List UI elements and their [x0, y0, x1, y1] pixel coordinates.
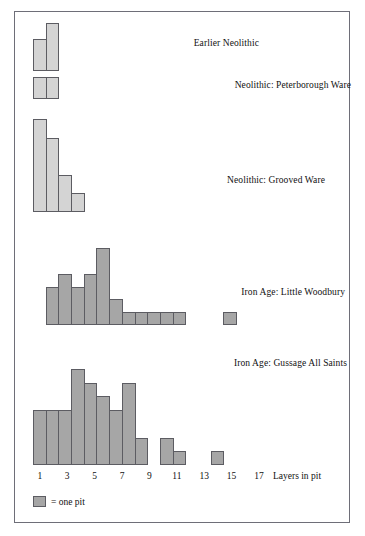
legend: = one pit — [33, 496, 85, 507]
bar — [96, 248, 110, 325]
bar-group-peterborough-ware — [33, 77, 259, 99]
bar — [84, 383, 98, 465]
plot-area-grooved-ware — [33, 120, 259, 213]
figure-frame: Earlier Neolithic Neolithic: Peterboroug… — [14, 11, 350, 523]
bar — [96, 396, 110, 465]
bar — [122, 312, 136, 325]
plot-area-earlier-neolithic — [33, 24, 259, 72]
bar — [46, 287, 60, 326]
bar-group-grooved-ware — [33, 119, 259, 212]
bar — [58, 410, 72, 465]
bar — [160, 312, 174, 325]
bar — [58, 274, 72, 325]
bar — [71, 193, 85, 212]
x-tick-3: 3 — [58, 471, 76, 481]
bar — [135, 438, 149, 465]
bar — [173, 451, 187, 465]
bar — [33, 410, 47, 465]
bar — [46, 77, 60, 99]
x-tick-15: 15 — [223, 471, 241, 481]
bar — [33, 39, 47, 71]
x-tick-7: 7 — [113, 471, 131, 481]
series-label-grooved-ware: Neolithic: Grooved Ware — [227, 175, 325, 185]
bar — [33, 77, 47, 99]
bar — [109, 299, 123, 325]
bar — [147, 312, 161, 325]
x-tick-13: 13 — [195, 471, 213, 481]
bar — [71, 369, 85, 465]
legend-label: = one pit — [51, 497, 85, 507]
plot-area-peterborough-ware — [33, 78, 259, 100]
bar — [84, 274, 98, 325]
bar — [58, 175, 72, 212]
plot-area-gussage-all-saints — [33, 370, 259, 466]
bar — [46, 410, 60, 465]
bar — [223, 312, 237, 325]
series-label-little-woodbury: Iron Age: Little Woodbury — [241, 287, 345, 297]
x-tick-1: 1 — [31, 471, 49, 481]
bar — [33, 119, 47, 212]
bar — [46, 138, 60, 212]
series-label-gussage-all-saints: Iron Age: Gussage All Saints — [234, 358, 347, 368]
bar-group-gussage-all-saints — [33, 369, 259, 465]
x-axis-tick-labels: 1357911131517 — [33, 471, 259, 485]
series-label-peterborough-ware: Neolithic: Peterborough Ware — [235, 80, 351, 90]
bar — [211, 451, 225, 465]
bar — [173, 312, 187, 325]
legend-swatch-one-pit — [33, 496, 46, 507]
bar — [160, 438, 174, 465]
bar — [135, 312, 149, 325]
series-label-earlier-neolithic: Earlier Neolithic — [194, 38, 259, 48]
bar — [46, 23, 60, 71]
bar-group-little-woodbury — [33, 248, 259, 325]
x-tick-17: 17 — [250, 471, 268, 481]
plot-area-little-woodbury — [33, 249, 259, 326]
bar — [122, 383, 136, 465]
bar — [109, 410, 123, 465]
x-tick-11: 11 — [168, 471, 186, 481]
x-tick-5: 5 — [86, 471, 104, 481]
bar — [71, 287, 85, 326]
x-axis-title: Layers in pit — [273, 471, 321, 481]
x-tick-9: 9 — [140, 471, 158, 481]
